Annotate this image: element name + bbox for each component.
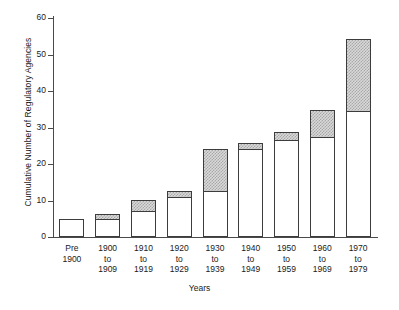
bar-group: [131, 199, 156, 237]
x-axis-label: 1970 to 1979: [340, 243, 376, 275]
y-axis-tick-label: 10: [2, 196, 46, 205]
x-axis-label: Pre 1900: [54, 243, 90, 264]
bar-segment-lower: [167, 197, 192, 237]
bar-segment-upper: [346, 39, 371, 112]
bar-group: [59, 219, 84, 237]
x-axis-label: 1900 to 1909: [90, 243, 126, 275]
y-axis-tick-label: 60: [2, 13, 46, 22]
bar-segment-upper: [95, 214, 120, 219]
x-axis-label: 1920 to 1929: [161, 243, 197, 275]
y-axis-tick-label: 50: [2, 50, 46, 59]
x-axis-label: 1910 to 1919: [126, 243, 162, 275]
bar-segment-lower: [59, 219, 84, 237]
bar-group: [346, 38, 371, 237]
x-axis-title: Years: [0, 283, 399, 293]
x-axis-label: 1940 to 1949: [233, 243, 269, 275]
regulatory-agencies-bar-chart: Cumulative Number of Regulatory Agencies…: [0, 0, 399, 310]
bar-segment-upper: [167, 191, 192, 198]
x-axis-label: 1950 to 1959: [269, 243, 305, 275]
bar-segment-upper: [310, 110, 335, 137]
bar-group: [238, 142, 263, 237]
x-axis-label: 1960 to 1969: [304, 243, 340, 275]
bar-group: [167, 190, 192, 237]
bar-segment-lower: [274, 140, 299, 237]
y-axis-tick-label: 40: [2, 86, 46, 95]
bar-segment-lower: [95, 219, 120, 237]
bar-segment-upper: [131, 200, 156, 213]
x-axis-label: 1930 to 1939: [197, 243, 233, 275]
plot-area: [54, 18, 376, 237]
y-axis-tick-label: 0: [2, 232, 46, 241]
bar-segment-lower: [203, 191, 228, 237]
bar-group: [310, 109, 335, 237]
bar-segment-lower: [310, 137, 335, 237]
bar-segment-upper: [238, 143, 263, 150]
bar-segment-upper: [274, 132, 299, 141]
y-axis-tick-label: 30: [2, 123, 46, 132]
bar-segment-lower: [238, 149, 263, 237]
bar-group: [203, 148, 228, 237]
bar-group: [95, 213, 120, 237]
x-axis-line: [53, 237, 378, 238]
bar-group: [274, 131, 299, 237]
bar-segment-lower: [131, 211, 156, 237]
y-axis-tick: [48, 237, 54, 238]
bar-segment-lower: [346, 111, 371, 237]
y-axis-tick-label: 20: [2, 159, 46, 168]
bar-segment-upper: [203, 149, 228, 193]
